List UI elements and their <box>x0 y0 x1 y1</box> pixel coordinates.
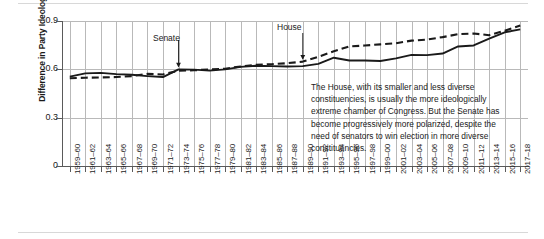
x-tick-label: 2003–04 <box>415 144 424 174</box>
x-tick-label: 1979–80 <box>228 144 237 174</box>
y-tick-mark <box>56 21 62 22</box>
chart-figure: Difference in Party Ideology 00.30.60.9 … <box>0 0 544 239</box>
x-tick-mark <box>210 167 211 172</box>
x-tick-label: 2001–02 <box>399 144 408 174</box>
x-tick-label: 1967–68 <box>135 144 144 174</box>
x-tick-mark <box>443 167 444 172</box>
x-tick-mark <box>132 167 133 172</box>
x-tick-label: 1975–76 <box>197 144 206 174</box>
bottom-divider-rule <box>18 232 528 233</box>
x-tick-mark <box>427 167 428 172</box>
x-tick-label: 1977–78 <box>213 144 222 174</box>
x-tick-mark <box>163 167 164 172</box>
x-tick-label: 1963–64 <box>104 144 113 174</box>
x-tick-label: 2013–14 <box>492 144 501 174</box>
x-tick-mark <box>489 167 490 172</box>
x-tick-mark <box>365 167 366 172</box>
x-tick-mark <box>287 167 288 172</box>
y-tick-label: 0.3 <box>32 112 58 122</box>
x-tick-label: 2009–10 <box>461 144 470 174</box>
x-tick-mark <box>505 167 506 172</box>
x-tick-mark <box>349 167 350 172</box>
x-tick-mark <box>241 167 242 172</box>
series-line-house <box>70 26 520 79</box>
y-tick-mark <box>56 69 62 70</box>
annotation-house: House <box>277 22 302 32</box>
x-tick-label: 1995–96 <box>352 144 361 174</box>
x-tick-mark <box>474 167 475 172</box>
series-line-senate <box>70 29 520 77</box>
y-tick-mark <box>56 118 62 119</box>
x-tick-label: 1993–94 <box>337 144 346 174</box>
x-tick-label: 2007–08 <box>446 144 455 174</box>
x-tick-label: 1973–74 <box>182 144 191 174</box>
x-tick-label: 1985–86 <box>275 144 284 174</box>
x-tick-label: 1991–92 <box>321 144 330 174</box>
y-tick-label: 0.6 <box>32 63 58 73</box>
x-tick-mark <box>412 167 413 172</box>
x-tick-mark <box>225 167 226 172</box>
x-tick-mark <box>380 167 381 172</box>
x-tick-mark <box>256 167 257 172</box>
annotation-arrow-head <box>176 63 181 68</box>
x-tick-mark <box>334 167 335 172</box>
x-tick-mark <box>318 167 319 172</box>
x-tick-label: 1983–84 <box>259 144 268 174</box>
x-tick-label: 2015–16 <box>508 144 517 174</box>
x-tick-mark <box>116 167 117 172</box>
y-tick-label: 0 <box>32 160 58 170</box>
x-tick-label: 1989–90 <box>306 144 315 174</box>
x-tick-mark <box>194 167 195 172</box>
x-tick-mark <box>303 167 304 172</box>
y-axis-tick-labels: 00.30.60.9 <box>22 0 58 239</box>
x-tick-label: 1965–66 <box>119 144 128 174</box>
x-tick-label: 2017–18 <box>523 144 532 174</box>
x-tick-mark <box>520 167 521 172</box>
x-tick-mark <box>458 167 459 172</box>
x-tick-mark <box>396 167 397 172</box>
x-tick-mark <box>272 167 273 172</box>
y-tick-mark <box>56 166 62 167</box>
x-tick-mark <box>70 167 71 172</box>
annotation-senate: Senate <box>153 33 180 43</box>
x-tick-mark <box>147 167 148 172</box>
x-tick-label: 1959–60 <box>73 144 82 174</box>
x-tick-label: 1981–82 <box>244 144 253 174</box>
x-tick-label: 2005–06 <box>430 144 439 174</box>
x-tick-label: 1971–72 <box>166 144 175 174</box>
x-tick-mark <box>101 167 102 172</box>
x-tick-label: 1997–98 <box>368 144 377 174</box>
x-tick-label: 1961–62 <box>88 144 97 174</box>
x-tick-mark <box>85 167 86 172</box>
y-tick-label: 0.9 <box>32 15 58 25</box>
x-tick-label: 1999–00 <box>383 144 392 174</box>
x-tick-label: 1969–70 <box>150 144 159 174</box>
x-tick-label: 2011–12 <box>477 144 486 174</box>
x-tick-mark <box>179 167 180 172</box>
top-divider-rule <box>18 3 528 4</box>
annotation-arrow-head <box>300 55 305 60</box>
x-tick-label: 1987–88 <box>290 144 299 174</box>
